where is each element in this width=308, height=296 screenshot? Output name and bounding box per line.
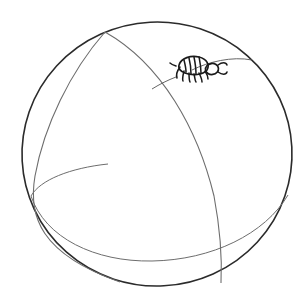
sphere-drawing: [0, 0, 308, 296]
figure-canvas: Ant walking on a sphere Line drawing of …: [0, 0, 308, 296]
background-rect: [0, 0, 308, 296]
